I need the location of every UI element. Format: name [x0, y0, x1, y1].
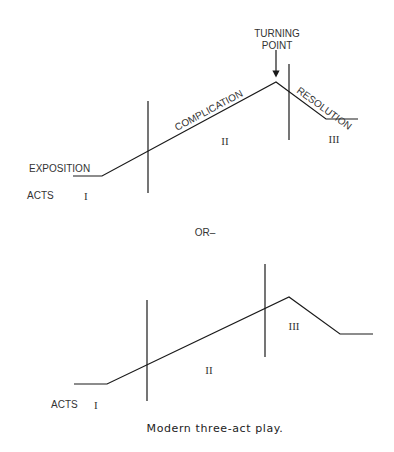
figure-caption: Modern three-act play. — [147, 422, 284, 435]
bottom-act-2-label: II — [205, 364, 213, 376]
three-act-structure-diagram: TURNING POINT EXPOSITION COMPLICATION RE… — [0, 0, 394, 452]
bottom-act-1-label: I — [94, 399, 98, 411]
top-act-2-label: II — [221, 135, 229, 147]
turning-point-label-line2: POINT — [262, 40, 293, 51]
top-acts-label: ACTS — [27, 190, 54, 201]
top-diagram: TURNING POINT EXPOSITION COMPLICATION RE… — [27, 28, 358, 202]
top-act-1-label: I — [84, 190, 88, 202]
bottom-diagram: ACTS I II III — [51, 264, 373, 411]
turning-point-label-line1: TURNING — [254, 28, 300, 39]
exposition-label: EXPOSITION — [29, 163, 90, 174]
top-act-3-label: III — [329, 133, 340, 145]
bottom-act-3-label: III — [289, 320, 300, 332]
complication-label: COMPLICATION — [173, 88, 245, 133]
resolution-label: RESOLUTION — [295, 85, 354, 132]
or-separator: OR– — [195, 227, 216, 238]
bottom-plot-line — [74, 297, 373, 384]
bottom-acts-label: ACTS — [51, 399, 78, 410]
